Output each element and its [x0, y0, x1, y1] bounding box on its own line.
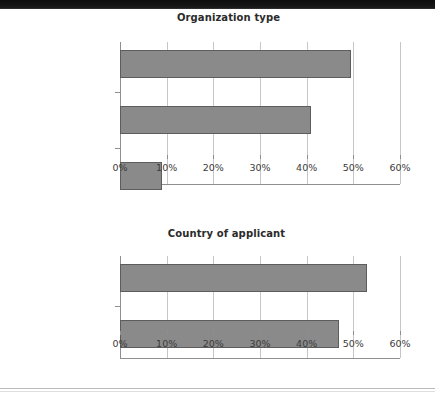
x-tick-mark-30% [260, 155, 261, 159]
x-tick-label-0%: 0% [100, 338, 140, 349]
x-tick-label-10%: 10% [147, 162, 187, 173]
x-axis-line [120, 184, 400, 185]
x-tick-mark-60% [400, 331, 401, 335]
x-tick-mark-0% [120, 331, 121, 335]
x-tick-mark-40% [307, 331, 308, 335]
x-tick-label-40%: 40% [287, 338, 327, 349]
x-tick-mark-30% [260, 331, 261, 335]
x-tick-mark-50% [353, 331, 354, 335]
page-footer-rule [0, 388, 435, 389]
x-tick-label-30%: 30% [240, 338, 280, 349]
x-tick-label-10%: 10% [147, 338, 187, 349]
bar [120, 106, 311, 134]
chart-country-of-applicant: Country of applicant InternationalDomest… [0, 228, 435, 388]
x-axis-line [120, 358, 400, 359]
x-tick-mark-0% [120, 155, 121, 159]
x-tick-mark-50% [353, 155, 354, 159]
chart-title-country-of-applicant: Country of applicant [0, 228, 435, 239]
scan-edge-band-top [0, 0, 435, 9]
bar [120, 264, 367, 292]
x-tick-label-40%: 40% [287, 162, 327, 173]
x-tick-label-0%: 0% [100, 162, 140, 173]
y-tick-mark [115, 306, 120, 307]
y-tick-mark [115, 92, 120, 93]
x-tick-mark-60% [400, 155, 401, 159]
x-tick-label-60%: 60% [380, 162, 420, 173]
x-tick-label-60%: 60% [380, 338, 420, 349]
x-tick-mark-40% [307, 155, 308, 159]
bar [120, 50, 351, 78]
x-tick-label-50%: 50% [333, 338, 373, 349]
x-tick-mark-10% [167, 331, 168, 335]
x-tick-label-20%: 20% [193, 162, 233, 173]
x-tick-label-20%: 20% [193, 338, 233, 349]
x-tick-label-50%: 50% [333, 162, 373, 173]
x-tick-mark-20% [213, 331, 214, 335]
y-tick-mark [115, 148, 120, 149]
x-tick-label-30%: 30% [240, 162, 280, 173]
x-tick-mark-10% [167, 155, 168, 159]
chart-organization-type: Organization type For-profit and hybridN… [0, 12, 435, 224]
chart-title-organization-type: Organization type [0, 12, 435, 23]
page-footer-rule-secondary [0, 391, 435, 392]
x-tick-mark-20% [213, 155, 214, 159]
